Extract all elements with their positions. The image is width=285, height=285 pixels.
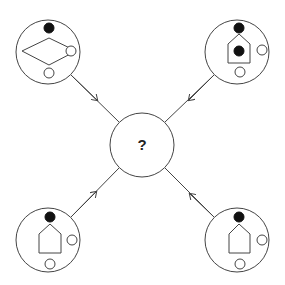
white-dot-icon <box>235 67 245 77</box>
white-dot-icon <box>257 45 267 55</box>
node-bottom-right <box>205 208 269 272</box>
black-dot-icon <box>44 23 54 33</box>
center-circle <box>110 113 174 177</box>
arrow-bottom-left-icon <box>71 192 96 217</box>
center-node <box>110 113 174 177</box>
white-dot-icon <box>67 235 77 245</box>
white-dot-icon <box>45 259 55 269</box>
node-top-right <box>205 20 269 84</box>
black-dot-icon <box>45 212 55 222</box>
arrow-top-left-icon <box>71 75 97 100</box>
black-dot-icon <box>234 23 244 33</box>
white-dot-icon <box>44 68 54 78</box>
node-top-left <box>16 20 80 84</box>
white-dot-icon <box>257 235 267 245</box>
arrow-bottom-right-icon <box>190 194 214 217</box>
black-dot-icon <box>234 212 244 222</box>
node-bottom-left <box>16 208 80 272</box>
white-dot-icon <box>235 259 245 269</box>
black-dot-icon <box>234 46 244 56</box>
white-dot-icon <box>66 46 76 56</box>
arrow-top-right-icon <box>189 75 214 100</box>
puzzle-diagram <box>0 0 285 285</box>
